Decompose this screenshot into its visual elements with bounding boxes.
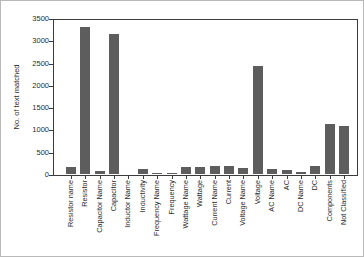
y-tick-mark (49, 130, 53, 131)
bar-resistor-name (66, 167, 76, 174)
x-tick-label: DC Name (296, 180, 306, 250)
x-tick-mark (301, 176, 302, 179)
bar-inductivity (138, 169, 148, 174)
x-tick-label: Capacitor Name (95, 180, 105, 250)
x-tick-label: Wattage Name (181, 180, 191, 250)
x-tick-mark (287, 176, 288, 179)
x-tick-mark (272, 176, 273, 179)
bar-frequency (167, 173, 177, 174)
y-tick-mark (49, 153, 53, 154)
x-tick-mark (258, 176, 259, 179)
plot-area (53, 19, 358, 176)
bar-ac (282, 170, 292, 174)
x-tick-label: AC (282, 180, 292, 250)
bar-components (325, 124, 335, 174)
bar-capacitor (109, 34, 119, 174)
x-tick-mark (71, 176, 72, 179)
x-tick-label: Current (224, 180, 234, 250)
y-tick-mark (49, 19, 53, 20)
y-tick-mark (49, 86, 53, 87)
x-tick-label: Capacitor (109, 180, 119, 250)
bar-ac-name (267, 169, 277, 174)
x-tick-mark (100, 176, 101, 179)
figure: No. of text matched 05001000150020002500… (0, 0, 364, 257)
x-tick-label: Inductivity (138, 180, 148, 250)
x-tick-mark (157, 176, 158, 179)
x-tick-label: Frequency (167, 180, 177, 250)
x-tick-label: Resistor name (66, 180, 76, 250)
y-tick-label: 1500 (9, 103, 49, 113)
bar-voltage (253, 66, 263, 174)
x-tick-label: AC Name (267, 180, 277, 250)
bar-frequency-name (152, 173, 162, 174)
y-tick-label: 2000 (9, 81, 49, 91)
bar-resistor (80, 27, 90, 174)
x-tick-mark (344, 176, 345, 179)
bar-wattage (195, 167, 205, 174)
bar-current (224, 166, 234, 174)
bar-capacitor-name (95, 171, 105, 174)
x-tick-label: Not Classified (339, 180, 349, 250)
y-tick-label: 500 (9, 148, 49, 158)
x-tick-label: Components (325, 180, 335, 250)
y-tick-label: 2500 (9, 59, 49, 69)
x-tick-label: Current Name (210, 180, 220, 250)
x-tick-mark (114, 176, 115, 179)
bar-dc-name (296, 172, 306, 174)
x-tick-mark (330, 176, 331, 179)
y-tick-mark (49, 64, 53, 65)
y-tick-mark (49, 41, 53, 42)
bar-voltage-name (238, 168, 248, 174)
x-tick-label: Inductor Name (123, 180, 133, 250)
bar-wattage-name (181, 167, 191, 174)
x-tick-label: DC (310, 180, 320, 250)
y-tick-label: 1000 (9, 125, 49, 135)
x-tick-label: Frequency Name (152, 180, 162, 250)
x-tick-mark (229, 176, 230, 179)
x-tick-mark (85, 176, 86, 179)
y-tick-label: 0 (9, 170, 49, 180)
x-tick-mark (215, 176, 216, 179)
x-tick-mark (315, 176, 316, 179)
x-tick-label: Wattage (195, 180, 205, 250)
x-tick-mark (128, 176, 129, 179)
x-tick-mark (243, 176, 244, 179)
x-tick-mark (200, 176, 201, 179)
x-tick-mark (186, 176, 187, 179)
bar-current-name (210, 166, 220, 174)
y-tick-label: 3500 (9, 14, 49, 24)
bar-not-classified (339, 126, 349, 174)
x-tick-label: Voltage (253, 180, 263, 250)
x-tick-mark (172, 176, 173, 179)
x-tick-label: Voltage Name (238, 180, 248, 250)
y-tick-mark (49, 108, 53, 109)
y-tick-mark (49, 175, 53, 176)
bar-dc (310, 166, 320, 174)
y-tick-label: 3000 (9, 36, 49, 46)
x-tick-label: Resistor (80, 180, 90, 250)
x-tick-mark (143, 176, 144, 179)
